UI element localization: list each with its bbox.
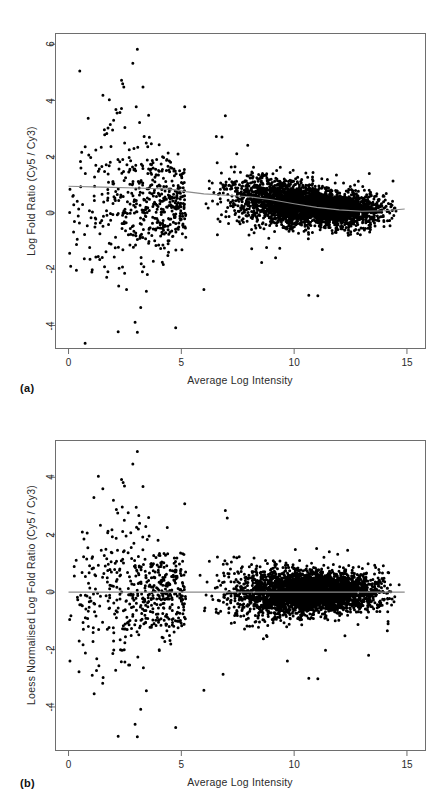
y-tick-label: 0 <box>45 589 56 595</box>
y-axis-label-a: Log Fold Ratio (Cy5 / Cy3) <box>25 126 37 256</box>
panel-caption-a: (a) <box>20 382 34 394</box>
scatter-plot-svg-a <box>55 33 446 362</box>
panel-b: Loess Normalised Log Fold Ratio (Cy5 / C… <box>0 406 446 811</box>
x-tick-label: 5 <box>179 759 185 770</box>
panel-caption-b: (b) <box>20 777 35 789</box>
x-tick-label: 10 <box>289 357 300 368</box>
y-tick-label: 2 <box>45 154 56 160</box>
x-tick-label: 10 <box>289 759 300 770</box>
y-tick-label: -2 <box>45 265 56 274</box>
plot-area-a <box>55 33 425 348</box>
x-axis-label-b: Average Log Intensity <box>55 776 425 788</box>
y-tick-label: 4 <box>45 98 56 104</box>
ma-plot-figure: Log Fold Ratio (Cy5 / Cy3) Average Log I… <box>0 0 446 811</box>
y-tick-label: 4 <box>45 475 56 481</box>
y-tick-label: 6 <box>45 41 56 47</box>
y-tick-label: -4 <box>45 321 56 330</box>
plot-area-b <box>55 440 425 750</box>
panel-a: Log Fold Ratio (Cy5 / Cy3) Average Log I… <box>0 0 446 406</box>
y-tick-label: -4 <box>45 702 56 711</box>
x-tick-label: 0 <box>66 759 72 770</box>
y-tick-label: -2 <box>45 645 56 654</box>
y-axis-label-b: Loess Normalised Log Fold Ratio (Cy5 / C… <box>25 485 37 705</box>
y-tick-label: 0 <box>45 210 56 216</box>
x-axis-label-a: Average Log Intensity <box>55 374 425 386</box>
x-tick-label: 0 <box>66 357 72 368</box>
y-tick-label: 2 <box>45 532 56 538</box>
x-tick-label: 5 <box>179 357 185 368</box>
scatter-plot-svg-b <box>55 440 446 764</box>
x-tick-label: 15 <box>401 357 412 368</box>
x-tick-label: 15 <box>401 759 412 770</box>
